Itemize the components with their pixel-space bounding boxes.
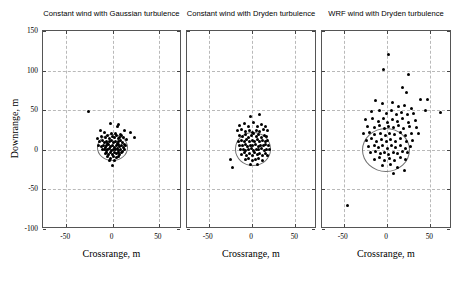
gridline-horizontal (43, 189, 180, 190)
data-point (426, 98, 429, 101)
x-tick-label: 50 (154, 232, 161, 241)
x-tick-mark-top (113, 31, 114, 34)
data-point (415, 126, 418, 129)
data-point (406, 113, 409, 116)
x-tick-label: 50 (426, 232, 433, 241)
y-tick-mark-right (447, 71, 450, 72)
y-tick-mark-right (447, 189, 450, 190)
data-point (385, 112, 388, 115)
gridline-vertical (295, 31, 296, 227)
data-point (396, 120, 399, 123)
x-tick-mark-top (209, 31, 210, 34)
data-point (412, 112, 415, 115)
y-tick-mark (43, 71, 46, 72)
plot-area-1 (42, 30, 181, 228)
data-point (419, 98, 422, 101)
gridline-horizontal (187, 110, 315, 111)
gridline-vertical (209, 31, 210, 227)
data-point (394, 140, 397, 143)
data-point (400, 111, 403, 114)
data-point (407, 121, 410, 124)
data-point (373, 126, 376, 129)
gridline-vertical (344, 31, 345, 227)
y-tick-mark (43, 31, 46, 32)
data-point (238, 124, 241, 127)
data-point (373, 158, 376, 161)
data-point (402, 127, 405, 130)
gridline-horizontal (187, 71, 315, 72)
data-point (266, 139, 269, 142)
data-point (411, 139, 414, 142)
x-tick-mark-top (159, 31, 160, 34)
data-point (403, 169, 406, 172)
data-point (113, 159, 116, 162)
data-point (383, 127, 386, 130)
x-tick-label: 0 (110, 232, 114, 241)
y-tick-mark (187, 229, 190, 230)
data-point (401, 117, 404, 120)
data-point (247, 125, 250, 128)
y-tick-mark (322, 31, 325, 32)
data-point (266, 154, 269, 157)
x-tick-mark (113, 224, 114, 227)
data-point (251, 154, 254, 157)
y-tick-mark (187, 71, 190, 72)
data-point (377, 120, 380, 123)
x-tick-label: 50 (291, 232, 298, 241)
y-tick-mark (187, 110, 190, 111)
y-tick-mark (322, 110, 325, 111)
data-point (407, 73, 410, 76)
data-point (386, 147, 389, 150)
x-tick-mark (209, 224, 210, 227)
data-point (390, 109, 393, 112)
data-point (403, 104, 406, 107)
data-point (370, 110, 373, 113)
data-point (378, 109, 381, 112)
data-point (382, 68, 385, 71)
data-point (108, 159, 111, 162)
data-point (366, 125, 369, 128)
y-tick-mark (322, 71, 325, 72)
data-point (264, 125, 267, 128)
x-axis-label-2: Crossrange, m (186, 248, 316, 259)
data-point (387, 125, 390, 128)
data-point (401, 86, 404, 89)
x-tick-mark-top (295, 31, 296, 34)
data-point (405, 91, 408, 94)
gridline-vertical (113, 31, 114, 227)
data-point (364, 118, 367, 121)
data-point (414, 119, 417, 122)
data-point (378, 124, 381, 127)
data-point (346, 204, 349, 207)
data-point (404, 147, 407, 150)
data-point (399, 156, 402, 159)
y-tick-mark-right (312, 71, 315, 72)
panel-title-3: WRF wind with Dryden turbulence (317, 9, 455, 18)
x-tick-mark-top (66, 31, 67, 34)
data-point (388, 132, 391, 135)
data-point (365, 139, 368, 142)
data-point (266, 129, 269, 132)
data-point (392, 172, 395, 175)
gridline-vertical (66, 31, 67, 227)
data-point (410, 107, 413, 110)
data-point (87, 110, 90, 113)
data-point (395, 113, 398, 116)
y-tick-mark (187, 31, 190, 32)
gridline-vertical (430, 31, 431, 227)
y-tick-mark-right (177, 71, 180, 72)
x-tick-label: -50 (203, 232, 213, 241)
x-tick-mark (387, 224, 388, 227)
data-point (243, 122, 246, 125)
data-point (252, 121, 255, 124)
data-point (265, 135, 268, 138)
plot-area-3 (321, 30, 451, 228)
data-point (377, 146, 380, 149)
y-tick-mark-right (177, 31, 180, 32)
y-tick-mark (187, 150, 190, 151)
data-point (256, 163, 259, 166)
data-point (129, 131, 132, 134)
x-tick-label: -50 (338, 232, 348, 241)
data-point (391, 118, 394, 121)
data-point (439, 111, 442, 114)
